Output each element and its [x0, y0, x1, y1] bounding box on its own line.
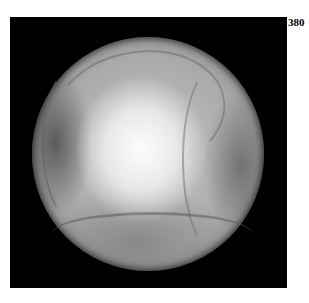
tissue-fold [52, 212, 252, 255]
endoscopic-view [32, 37, 264, 271]
image-frame [10, 17, 287, 288]
panel-label: 380 [288, 16, 305, 28]
vessel-left [42, 67, 106, 221]
